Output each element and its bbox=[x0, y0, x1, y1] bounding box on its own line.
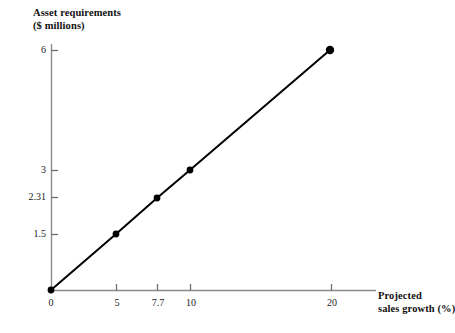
data-point-0 bbox=[48, 287, 55, 294]
y-tick-label-2-31: 2.31 bbox=[8, 191, 46, 202]
x-tick-label-20: 20 bbox=[318, 297, 346, 308]
x-tick-label-7-7: 7.7 bbox=[143, 297, 173, 308]
data-point-20 bbox=[326, 46, 334, 54]
y-tick-label-3: 3 bbox=[14, 164, 46, 175]
x-tick-label-0: 0 bbox=[38, 297, 64, 308]
x-tick-label-5: 5 bbox=[104, 297, 130, 308]
data-point-7-7 bbox=[154, 195, 161, 202]
data-point-5 bbox=[113, 231, 120, 238]
y-tick-label-6: 6 bbox=[14, 44, 46, 55]
data-point-10 bbox=[187, 167, 194, 174]
y-tick-label-1-5: 1.5 bbox=[10, 228, 46, 239]
x-tick-label-10: 10 bbox=[177, 297, 205, 308]
